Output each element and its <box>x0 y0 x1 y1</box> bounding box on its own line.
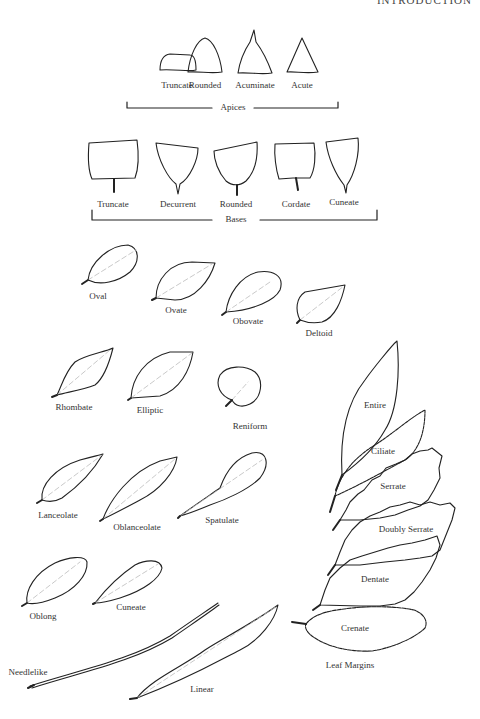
base-label-cuneate: Cuneate <box>329 197 359 207</box>
shape-reniform-drawing <box>218 367 261 406</box>
margin-label-doubly-serrate: Doubly Serrate <box>379 524 434 534</box>
base-label-decurrent: Decurrent <box>160 199 196 209</box>
margin-label-entire: Entire <box>364 400 386 410</box>
margin-label-dentate: Dentate <box>361 574 389 584</box>
margin-entire-drawing <box>336 341 398 490</box>
shape-label-elliptic: Elliptic <box>137 405 164 415</box>
apex-label-acuminate: Acuminate <box>235 80 275 90</box>
apex-acute-drawing <box>287 38 318 73</box>
shape-oblanceolate-drawing <box>100 457 177 521</box>
base-label-truncate: Truncate <box>97 199 129 209</box>
shape-label-oblong: Oblong <box>30 611 57 621</box>
base-label-cordate: Cordate <box>282 199 311 209</box>
shape-label-linear: Linear <box>190 684 213 694</box>
shape-label-lanceolate: Lanceolate <box>38 510 77 520</box>
apex-truncate-drawing <box>160 54 196 71</box>
shape-obovate-drawing <box>222 272 281 315</box>
bases-group-label: Bases <box>222 214 251 224</box>
base-label-rounded: Rounded <box>220 199 253 209</box>
base-decurrent-drawing <box>156 143 198 194</box>
shape-label-ovate: Ovate <box>165 305 187 315</box>
apices-group-label: Apices <box>217 102 250 112</box>
apex-label-rounded: Rounded <box>189 80 222 90</box>
shape-spatulate-drawing <box>178 453 266 518</box>
base-truncate-drawing <box>88 140 138 192</box>
apex-rounded-drawing <box>188 38 222 73</box>
shape-label-oval: Oval <box>89 291 107 301</box>
margin-label-serrate: Serrate <box>380 481 405 491</box>
shape-label-cuneate: Cuneate <box>116 602 146 612</box>
shape-oval-drawing <box>82 245 137 284</box>
apex-label-acute: Acute <box>291 80 313 90</box>
margin-label-ciliate: Ciliate <box>371 446 395 456</box>
margin-ciliate-drawing <box>330 410 425 512</box>
shape-ovate-drawing <box>152 262 215 300</box>
shape-label-oblanceolate: Oblanceolate <box>113 522 160 532</box>
shape-deltoid-drawing <box>297 285 345 323</box>
shape-label-spatulate: Spatulate <box>205 515 239 525</box>
shape-lanceolate-drawing <box>37 454 103 503</box>
margin-label-crenate: Crenate <box>341 623 369 633</box>
shape-label-needlelike: Needlelike <box>9 667 48 677</box>
shape-label-rhombate: Rhombate <box>56 402 93 412</box>
shape-elliptic-drawing <box>128 352 193 400</box>
shape-label-reniform: Reniform <box>233 421 268 431</box>
margin-dentate-drawing <box>313 536 440 610</box>
margins-group-label: Leaf Margins <box>326 660 375 670</box>
base-cuneate-drawing <box>326 138 358 193</box>
margin-doubly-serrate-drawing <box>328 502 455 575</box>
shape-label-deltoid: Deltoid <box>306 328 333 338</box>
shape-rhombate-drawing <box>52 348 113 397</box>
shape-oblong-drawing <box>22 558 87 606</box>
shape-cuneate-drawing <box>93 561 162 604</box>
apex-acuminate-drawing <box>238 30 272 74</box>
base-rounded-drawing <box>214 142 257 195</box>
base-cordate-drawing <box>275 143 315 190</box>
shape-label-obovate: Obovate <box>233 316 264 326</box>
